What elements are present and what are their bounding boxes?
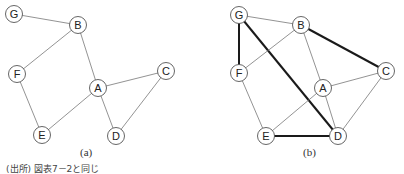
- node-label: D: [112, 130, 120, 142]
- node-label: B: [297, 19, 304, 31]
- node-A: A: [90, 80, 107, 97]
- edge-A-E: [42, 88, 98, 135]
- node-E: E: [34, 127, 51, 144]
- node-label: E: [38, 129, 45, 141]
- node-label: C: [382, 65, 390, 77]
- caption-a: (a): [80, 146, 92, 158]
- node-label: A: [319, 82, 327, 94]
- edge-F-E: [239, 73, 266, 136]
- node-label: C: [162, 65, 170, 77]
- node-label: E: [262, 130, 269, 142]
- node-label: F: [236, 67, 243, 79]
- node-A: A: [315, 80, 332, 97]
- graph-a: GBFACED: [6, 6, 175, 145]
- edge-G-B: [239, 15, 301, 25]
- edge-C-D: [116, 71, 166, 136]
- node-F: F: [9, 66, 26, 83]
- node-label: B: [74, 19, 81, 31]
- edge-B-F: [17, 25, 78, 74]
- source-note: (出所) 図表7－2と同じ: [6, 162, 99, 174]
- node-D: D: [330, 128, 347, 145]
- node-B: B: [293, 17, 310, 34]
- caption-b: (b): [303, 146, 316, 158]
- edge-A-C: [98, 71, 166, 88]
- edge-C-D: [338, 71, 386, 136]
- node-label: G: [10, 8, 19, 20]
- edge-G-B: [14, 14, 78, 25]
- node-label: G: [235, 9, 244, 21]
- node-label: F: [14, 68, 21, 80]
- node-C: C: [378, 63, 395, 80]
- node-F: F: [231, 65, 248, 82]
- edge-B-A: [78, 25, 98, 88]
- network-diagram: GBFACED GBFACED: [0, 0, 404, 174]
- edge-F-E: [17, 74, 42, 135]
- node-label: D: [334, 130, 342, 142]
- edge-B-C: [301, 25, 386, 71]
- node-B: B: [70, 17, 87, 34]
- node-G: G: [231, 7, 248, 24]
- graph-b: GBFACED: [231, 7, 395, 145]
- node-E: E: [258, 128, 275, 145]
- node-C: C: [158, 63, 175, 80]
- node-label: A: [94, 82, 102, 94]
- edge-G-D: [239, 15, 338, 136]
- edge-A-C: [323, 71, 386, 88]
- edge-B-F: [239, 25, 301, 73]
- node-G: G: [6, 6, 23, 23]
- node-D: D: [108, 128, 125, 145]
- edge-A-E: [266, 88, 323, 136]
